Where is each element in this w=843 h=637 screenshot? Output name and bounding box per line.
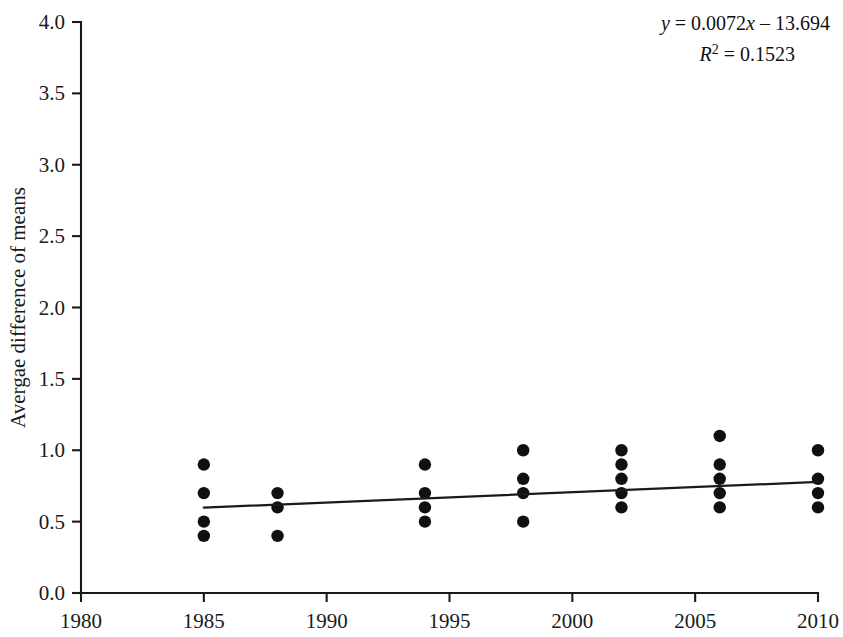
equation-intercept: – 13.694 bbox=[755, 12, 830, 34]
x-tick-label: 1990 bbox=[306, 609, 348, 633]
data-point bbox=[812, 487, 824, 499]
data-point bbox=[419, 458, 431, 470]
data-point bbox=[714, 430, 726, 442]
data-point bbox=[714, 487, 726, 499]
x-tick-label: 2005 bbox=[674, 609, 716, 633]
x-tick-label: 1985 bbox=[183, 609, 225, 633]
x-axis-ticks: 1980198519901995200020052010 bbox=[60, 593, 839, 633]
data-point bbox=[615, 501, 627, 513]
data-point bbox=[615, 458, 627, 470]
data-point bbox=[812, 444, 824, 456]
data-point bbox=[198, 458, 210, 470]
data-point bbox=[517, 473, 529, 485]
y-axis-ticks: 0.00.51.01.52.02.53.03.54.0 bbox=[39, 10, 81, 605]
data-point bbox=[615, 487, 627, 499]
x-tick-label: 1980 bbox=[60, 609, 102, 633]
data-point bbox=[198, 515, 210, 527]
y-tick-label: 2.5 bbox=[39, 224, 65, 248]
y-tick-label: 3.0 bbox=[39, 153, 65, 177]
y-tick-label: 2.0 bbox=[39, 296, 65, 320]
data-point bbox=[271, 530, 283, 542]
data-point bbox=[419, 501, 431, 513]
data-point bbox=[198, 487, 210, 499]
equation-x-symbol: x bbox=[745, 12, 755, 34]
data-point bbox=[419, 515, 431, 527]
data-point bbox=[714, 458, 726, 470]
y-tick-label: 3.5 bbox=[39, 81, 65, 105]
data-point bbox=[271, 487, 283, 499]
data-point bbox=[714, 473, 726, 485]
regression-equation-label: y = 0.0072x – 13.694 bbox=[659, 12, 830, 35]
r-squared-value: = 0.1523 bbox=[719, 43, 795, 65]
x-tick-label: 2010 bbox=[797, 609, 839, 633]
data-point bbox=[198, 530, 210, 542]
y-tick-label: 1.5 bbox=[39, 367, 65, 391]
data-point bbox=[714, 501, 726, 513]
data-point bbox=[615, 473, 627, 485]
data-point bbox=[615, 444, 627, 456]
equation-coefficient: = 0.0072 bbox=[670, 12, 746, 34]
equation-y-symbol: y bbox=[659, 12, 670, 35]
x-tick-label: 1995 bbox=[429, 609, 471, 633]
data-point bbox=[271, 501, 283, 513]
x-tick-label: 2000 bbox=[551, 609, 593, 633]
r-squared-label: R2 = 0.1523 bbox=[699, 42, 796, 65]
r-squared-symbol: R bbox=[699, 43, 712, 65]
chart-canvas: 0.00.51.01.52.02.53.03.54.0 198019851990… bbox=[0, 0, 843, 637]
y-tick-label: 1.0 bbox=[39, 438, 65, 462]
y-axis-title: Avergae difference of means bbox=[6, 187, 30, 428]
trend-line bbox=[204, 482, 818, 508]
r-squared-exponent: 2 bbox=[712, 42, 719, 57]
scatter-plot-figure: 0.00.51.01.52.02.53.03.54.0 198019851990… bbox=[0, 0, 843, 637]
y-tick-label: 0.5 bbox=[39, 510, 65, 534]
data-point bbox=[812, 501, 824, 513]
y-tick-label: 0.0 bbox=[39, 581, 65, 605]
data-point bbox=[517, 515, 529, 527]
y-tick-label: 4.0 bbox=[39, 10, 65, 34]
data-point bbox=[517, 444, 529, 456]
